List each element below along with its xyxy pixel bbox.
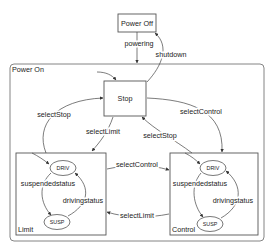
transition-control-to-stop-label: selectStop (143, 131, 177, 140)
transition-control-driv-to-susp-label: suspendedstatus (173, 179, 228, 188)
state-limit-susp-label: SUSP (50, 219, 65, 225)
initial-transition (97, 72, 116, 80)
state-limit-driv-label: DRIV (57, 165, 70, 171)
transition-limit-to-control-label: selectControl (116, 160, 158, 169)
transition-stop-to-control-label: selectControl (180, 107, 222, 116)
state-power-on-label: Power On (12, 65, 44, 74)
transition-limit-susp-to-driv-label: drivingstatus (63, 196, 104, 205)
transition-limit-driv-to-susp-label: suspendedstatus (21, 179, 76, 188)
state-stop-label: Stop (118, 94, 133, 103)
transition-powering-label: powering (124, 39, 153, 48)
state-control-susp-label: SUSP (203, 221, 218, 227)
state-control-label: Control (172, 225, 196, 234)
state-diagram: Power On Power Off powering shutdown Sto… (0, 0, 272, 249)
state-limit-label: Limit (18, 225, 33, 234)
transition-control-to-limit-label: selectLimit (120, 211, 154, 220)
transition-shutdown-label: shutdown (156, 50, 187, 59)
state-control-driv-label: DRIV (207, 165, 220, 171)
transition-stop-to-limit-label: selectLimit (86, 127, 120, 136)
transition-limit-to-stop (43, 98, 103, 153)
state-power-off-label: Power Off (121, 19, 153, 28)
transition-control-susp-to-driv-label: drivingstatus (213, 196, 254, 205)
transition-limit-to-stop-label: selectStop (37, 110, 71, 119)
